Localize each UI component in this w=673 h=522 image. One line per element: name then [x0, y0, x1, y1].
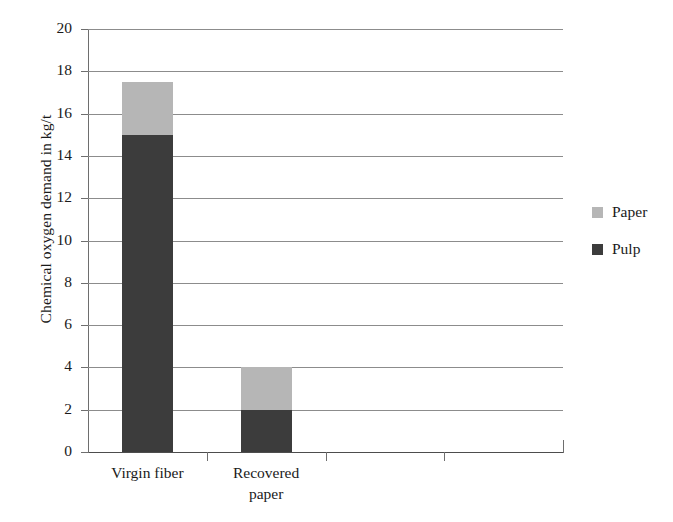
- legend-item-paper[interactable]: Paper: [592, 203, 647, 221]
- legend-swatch-paper: [592, 207, 603, 218]
- bar-segment-paper-virgin-fiber: [122, 82, 173, 135]
- y-tick-label: 4: [32, 357, 72, 375]
- x-tick-label-recovered-paper: Recoveredpaper: [186, 462, 346, 504]
- y-tick-label: 14: [32, 146, 72, 164]
- x-tick-mark: [207, 452, 208, 461]
- y-tick-label: 0: [32, 442, 72, 460]
- y-tick-label: 10: [32, 231, 72, 249]
- y-tick-label: 12: [32, 188, 72, 206]
- y-tick-mark: [81, 452, 89, 453]
- legend-swatch-pulp: [592, 244, 603, 255]
- bar-segment-paper-recovered-paper: [241, 367, 292, 409]
- bar-segment-pulp-recovered-paper: [241, 410, 292, 452]
- x-tick-label-line: paper: [186, 483, 346, 504]
- legend-item-pulp[interactable]: Pulp: [592, 240, 640, 258]
- x-axis-right-cap: [563, 440, 564, 453]
- chart-container: Chemical oxygen demand in kg/t 201816141…: [0, 0, 673, 522]
- bar-segment-pulp-virgin-fiber: [122, 135, 173, 452]
- x-tick-label-line: Recovered: [186, 462, 346, 483]
- legend-label-pulp: Pulp: [612, 240, 640, 258]
- y-tick-label: 6: [32, 315, 72, 333]
- y-tick-label: 2: [32, 400, 72, 418]
- y-tick-label: 16: [32, 104, 72, 122]
- y-tick-label: 20: [32, 19, 72, 37]
- gridline: [88, 71, 563, 72]
- plot-area: [88, 29, 563, 452]
- legend-label-paper: Paper: [612, 203, 647, 221]
- x-tick-mark: [444, 452, 445, 461]
- gridline: [88, 29, 563, 30]
- y-tick-label: 18: [32, 61, 72, 79]
- y-tick-label: 8: [32, 273, 72, 291]
- x-tick-mark: [326, 452, 327, 461]
